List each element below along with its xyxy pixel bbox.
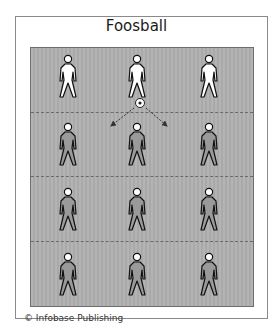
diagram-title: Foosball xyxy=(0,17,273,35)
player-icon xyxy=(60,188,217,230)
player-icon xyxy=(60,123,217,165)
foosball-field xyxy=(30,47,254,307)
player-icon xyxy=(60,253,217,295)
copyright-credit: © Infobase Publishing xyxy=(24,313,123,323)
player-icon xyxy=(60,55,217,97)
soccer-ball-icon xyxy=(136,99,145,108)
pass-arrow-icon xyxy=(111,108,167,126)
players-layer xyxy=(31,48,255,308)
